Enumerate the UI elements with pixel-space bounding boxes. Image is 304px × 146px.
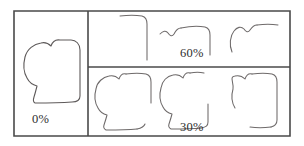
contour-occlusion-figure: 0% 60% 30%: [0, 0, 304, 146]
contour-fragment: [190, 72, 204, 73]
panel-label-30-percent: 30%: [180, 120, 204, 135]
contour-fragment: [250, 127, 271, 128]
contour-fragment: [230, 25, 257, 52]
contour-30-variant-3: [232, 73, 277, 128]
contour-fragment: [126, 73, 151, 103]
contour-fragment: [160, 28, 181, 36]
contour-full-outline: [24, 40, 80, 103]
contour-60-variant-1: [120, 15, 147, 60]
contour-fragment: [252, 73, 277, 127]
panel-label-0-percent: 0%: [32, 112, 49, 127]
contour-fragment: [137, 124, 145, 129]
contour-fragment: [95, 74, 137, 130]
panel-label-60-percent: 60%: [180, 46, 204, 61]
contour-fragment: [257, 24, 278, 25]
panel-0-shapes: [24, 40, 80, 103]
contour-fragment: [120, 15, 147, 60]
contour-fragment: [232, 74, 252, 108]
contour-30-variant-1: [95, 73, 151, 130]
figure-outer-frame: [14, 11, 290, 136]
contour-60-variant-3: [230, 24, 278, 52]
